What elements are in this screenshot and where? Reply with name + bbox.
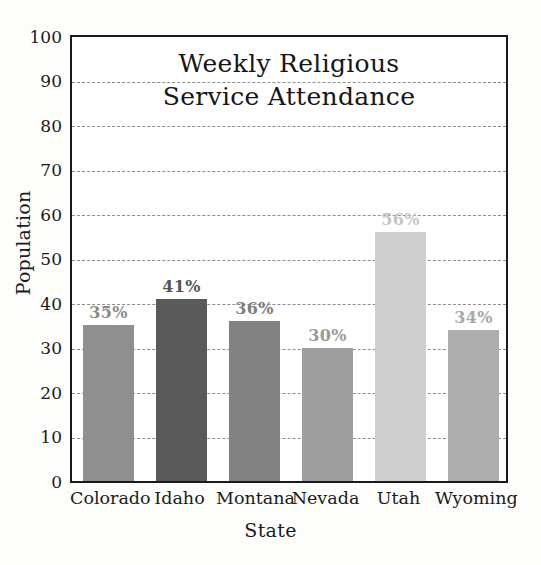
bar-wyoming[interactable]: 34% (448, 330, 499, 481)
y-tick-label: 80 (0, 116, 62, 136)
bar-value-label: 35% (89, 303, 127, 322)
bar-utah[interactable]: 56% (375, 232, 426, 481)
bar-value-label: 56% (381, 210, 419, 229)
plot-area: Weekly ReligiousService Attendance 35%41… (70, 35, 508, 483)
gridline (72, 126, 506, 127)
gridline (72, 304, 506, 305)
y-tick-label: 10 (0, 427, 62, 447)
gridline (72, 438, 506, 439)
y-tick-label: 0 (0, 472, 62, 492)
y-tick-label: 20 (0, 383, 62, 403)
gridline (72, 260, 506, 261)
bar-chart: Population 0102030405060708090100 Weekly… (0, 0, 541, 565)
gridline (72, 171, 506, 172)
x-tick-label-colorado: Colorado (70, 488, 143, 508)
bar-montana[interactable]: 36% (229, 321, 280, 481)
y-axis-title: Population (12, 173, 34, 313)
gridline (72, 393, 506, 394)
bar-value-label: 34% (454, 308, 492, 327)
gridline (72, 215, 506, 216)
bar-value-label: 36% (235, 299, 273, 318)
y-tick-label: 30 (0, 338, 62, 358)
chart-title: Weekly ReligiousService Attendance (72, 47, 506, 113)
x-tick-label-montana: Montana (216, 488, 289, 508)
y-tick-label: 90 (0, 71, 62, 91)
bar-value-label: 41% (162, 277, 200, 296)
x-tick-label-idaho: Idaho (143, 488, 216, 508)
x-axis-title: State (0, 519, 541, 541)
gridline (72, 349, 506, 350)
y-tick-label: 100 (0, 27, 62, 47)
bar-idaho[interactable]: 41% (156, 299, 207, 481)
x-tick-label-utah: Utah (362, 488, 435, 508)
x-tick-label-nevada: Nevada (289, 488, 362, 508)
bar-colorado[interactable]: 35% (83, 325, 134, 481)
bar-value-label: 30% (308, 326, 346, 345)
x-tick-label-wyoming: Wyoming (435, 488, 508, 508)
bar-nevada[interactable]: 30% (302, 348, 353, 482)
chart-title-line-1: Weekly Religious (72, 47, 506, 80)
chart-title-line-2: Service Attendance (72, 80, 506, 113)
